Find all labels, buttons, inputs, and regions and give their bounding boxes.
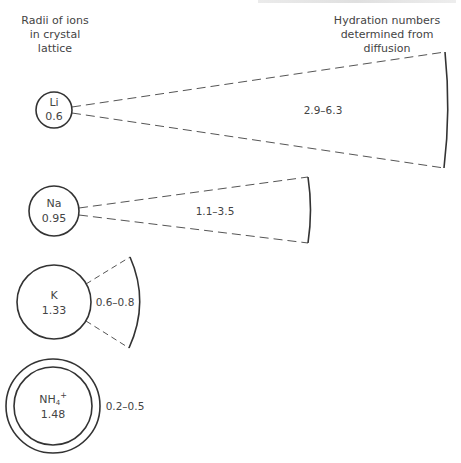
- ion-hydration-diagram: Li 0.6 2.9–6.3 Na 0.95 1.1–3.5 K 1.33 0.…: [0, 0, 461, 463]
- na-symbol: Na: [47, 197, 62, 210]
- na-sector-lower-edge: [79, 215, 308, 243]
- li-hydration-range: 2.9–6.3: [304, 104, 343, 116]
- na-hydration-range: 1.1–3.5: [196, 205, 235, 217]
- ion-nh4: NH4+ 1.48 0.2–0.5: [6, 359, 144, 453]
- k-sector-lower-edge: [86, 321, 129, 348]
- nh4-radius: 1.48: [41, 408, 66, 421]
- li-sector-upper-edge: [72, 52, 445, 107]
- li-radius: 0.6: [45, 110, 63, 123]
- na-ion-circle: [29, 186, 79, 236]
- ion-na: Na 0.95 1.1–3.5: [29, 177, 311, 243]
- nh4-hydration-range: 0.2–0.5: [106, 400, 145, 412]
- li-sector-lower-edge: [72, 113, 444, 168]
- k-radius: 1.33: [42, 304, 67, 317]
- k-hydration-range: 0.6–0.8: [96, 296, 135, 308]
- na-radius: 0.95: [42, 212, 67, 225]
- nh4-ion-circle: [14, 367, 92, 445]
- k-sector-upper-edge: [86, 257, 130, 284]
- li-symbol: Li: [49, 96, 58, 109]
- ion-li: Li 0.6 2.9–6.3: [36, 52, 448, 168]
- k-symbol: K: [50, 289, 58, 302]
- na-sector-arc: [308, 177, 311, 243]
- li-sector-arc: [444, 52, 448, 168]
- na-sector-upper-edge: [79, 177, 308, 208]
- ion-k: K 1.33 0.6–0.8: [17, 257, 140, 348]
- k-ion-circle: [17, 265, 91, 339]
